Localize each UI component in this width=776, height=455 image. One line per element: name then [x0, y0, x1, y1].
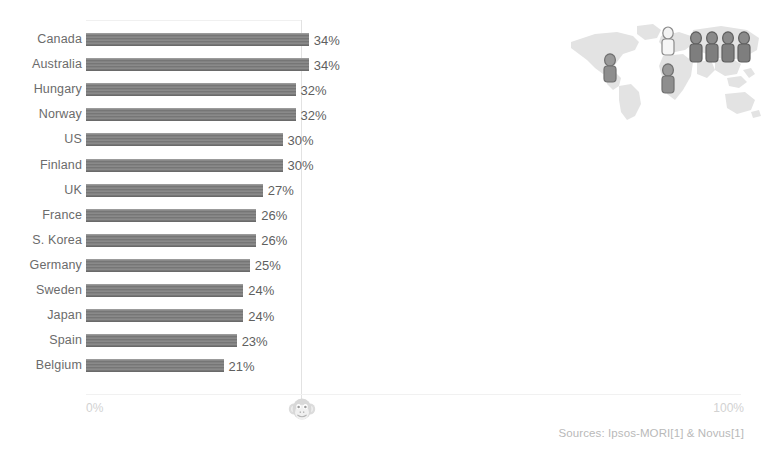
- map-figure-north-america: [604, 54, 616, 82]
- bar-row: UK27%: [0, 178, 776, 203]
- bar-fill: [86, 83, 296, 96]
- bar-category-label: Germany: [0, 259, 86, 272]
- bar-track: 24%: [86, 309, 776, 322]
- bar-category-label: UK: [0, 184, 86, 197]
- bar-category-label: Sweden: [0, 284, 86, 297]
- bar-fill: [86, 108, 296, 121]
- bar-value-label: 34%: [309, 58, 340, 71]
- bar-value-label: 21%: [224, 359, 255, 372]
- bar-row: France26%: [0, 203, 776, 228]
- bar-category-label: Australia: [0, 58, 86, 71]
- bar-value-label: 24%: [243, 284, 274, 297]
- bar-track: 21%: [86, 359, 776, 372]
- bar-category-label: S. Korea: [0, 234, 86, 247]
- bar-row: US30%: [0, 127, 776, 152]
- bar-row: Sweden24%: [0, 278, 776, 303]
- map-figure-asia-4: [738, 32, 750, 62]
- bar-fill: [86, 184, 263, 197]
- bar-fill: [86, 284, 243, 297]
- bar-row: Belgium21%: [0, 353, 776, 378]
- bar-fill: [86, 259, 250, 272]
- chart-baseline-rule: [86, 394, 741, 395]
- map-figure-asia-3: [722, 32, 734, 62]
- map-figure-asia-2: [706, 32, 718, 62]
- bar-track: 27%: [86, 184, 776, 197]
- bar-fill: [86, 133, 283, 146]
- map-figure-africa: [662, 64, 674, 93]
- map-figure-asia-1: [690, 32, 702, 62]
- bar-track: 26%: [86, 209, 776, 222]
- bar-category-label: Japan: [0, 309, 86, 322]
- bar-track: 26%: [86, 234, 776, 247]
- bar-value-label: 30%: [283, 133, 314, 146]
- bar-track: 25%: [86, 259, 776, 272]
- bar-row: S. Korea26%: [0, 228, 776, 253]
- axis-label-max: 100%: [713, 401, 744, 415]
- bar-value-label: 26%: [256, 234, 287, 247]
- bar-value-label: 26%: [256, 209, 287, 222]
- bar-value-label: 32%: [296, 83, 327, 96]
- bar-category-label: Finland: [0, 159, 86, 172]
- bar-fill: [86, 359, 224, 372]
- bar-value-label: 27%: [263, 184, 294, 197]
- bar-fill: [86, 309, 243, 322]
- bar-track: 23%: [86, 334, 776, 347]
- bar-row: Spain23%: [0, 328, 776, 353]
- bar-value-label: 32%: [296, 108, 327, 121]
- bar-category-label: France: [0, 209, 86, 222]
- bar-category-label: Canada: [0, 33, 86, 46]
- bar-fill: [86, 234, 256, 247]
- bar-value-label: 24%: [243, 309, 274, 322]
- bar-category-label: Norway: [0, 108, 86, 121]
- bar-fill: [86, 58, 309, 71]
- bar-track: 30%: [86, 159, 776, 172]
- bar-track: 24%: [86, 284, 776, 297]
- bar-row: Germany25%: [0, 253, 776, 278]
- bar-fill: [86, 159, 283, 172]
- bar-category-label: Hungary: [0, 83, 86, 96]
- map-figure-europe: [662, 27, 674, 55]
- bar-value-label: 25%: [250, 259, 281, 272]
- bar-category-label: US: [0, 133, 86, 146]
- bar-row: Finland30%: [0, 152, 776, 177]
- bar-chart: Canada34%Australia34%Hungary32%Norway32%…: [0, 0, 776, 455]
- monkey-face-icon: [288, 396, 316, 422]
- bar-value-label: 23%: [237, 334, 268, 347]
- axis-label-min: 0%: [86, 401, 103, 415]
- bar-category-label: Spain: [0, 334, 86, 347]
- bar-fill: [86, 334, 237, 347]
- bar-category-label: Belgium: [0, 359, 86, 372]
- world-map-icon: [565, 12, 770, 124]
- bar-value-label: 30%: [283, 159, 314, 172]
- bar-row: Japan24%: [0, 303, 776, 328]
- sources-caption: Sources: Ipsos-MORI[1] & Novus[1]: [559, 426, 744, 440]
- bar-track: 30%: [86, 133, 776, 146]
- bar-value-label: 34%: [309, 33, 340, 46]
- bar-fill: [86, 33, 309, 46]
- bar-fill: [86, 209, 256, 222]
- chart-title-cropped: [86, 0, 336, 9]
- chart-top-rule: [86, 20, 302, 21]
